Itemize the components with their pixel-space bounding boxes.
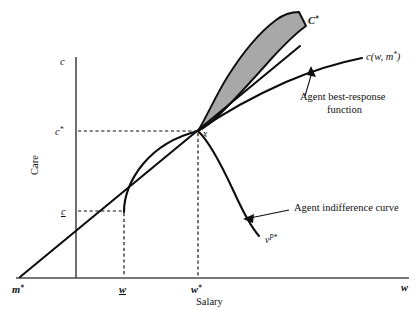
economics-diagram: C* c(w, m*) vP* x c c* c m* w w* w (0, 0, 419, 311)
y-tick-label-c-star-sup: * (60, 126, 64, 134)
x-tick-label-m-star-base: m (12, 284, 20, 295)
y-tick-label-c-star: c* (55, 126, 64, 137)
leader-line-indifference (250, 210, 289, 218)
x-tick-label-w-underbar: w (119, 284, 127, 295)
x-axis-name-label: Salary (196, 296, 224, 307)
point-label-equilibrium: x (202, 129, 208, 139)
curve-label-best-response: c(w, m*) (366, 51, 401, 63)
curve-label-best-response-tail: ) (396, 51, 401, 63)
curve-label-indifference-sup: P* (268, 234, 277, 242)
figure-container: C* c(w, m*) vP* x c c* c m* w w* w (0, 0, 419, 311)
region-label-c-star: C* (308, 15, 319, 26)
region-label-c-star-sup: * (315, 15, 319, 23)
x-tick-label-m-star-sup: * (20, 284, 24, 292)
y-axis-name-label: Care (29, 155, 40, 175)
annotation-best-response-line1: Agent best-response (300, 91, 386, 102)
curve-label-indifference: vP* (265, 234, 278, 245)
curve-agent-indifference (124, 131, 259, 236)
curve-label-best-response-base: c(w, m (366, 51, 394, 63)
x-tick-label-w-star: w* (191, 284, 202, 295)
y-axis-variable-label: c (60, 56, 65, 67)
x-axis-variable-label: w (401, 282, 409, 293)
x-tick-label-w-star-sup: * (198, 284, 202, 292)
annotation-best-response-line2: function (327, 104, 363, 115)
annotation-indifference-line1: Agent indifference curve (294, 202, 399, 213)
y-tick-label-c-underbar: c (61, 206, 66, 217)
curve-iso-line (20, 46, 300, 277)
x-tick-label-m-star: m* (12, 284, 24, 295)
shaded-region-c-star (198, 12, 306, 131)
